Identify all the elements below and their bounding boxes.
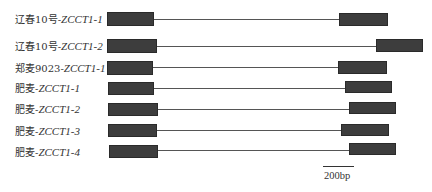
intron — [157, 130, 341, 131]
cultivar-name: 肥麦- — [15, 83, 38, 94]
exon-1 — [107, 12, 154, 26]
row-label-2: 辽春10号-ZCCT1-2 — [15, 40, 103, 53]
intron — [158, 150, 349, 151]
exon-1 — [109, 145, 158, 158]
row-label-1: 辽春10号-ZCCT1-1 — [15, 13, 103, 26]
scale-bar-label: 200bp — [324, 170, 350, 181]
cultivar-name: 辽春10号- — [15, 14, 61, 25]
gene-name: ZCCT1-2 — [61, 40, 103, 52]
cultivar-name: 肥麦- — [15, 126, 38, 137]
exon-2 — [349, 102, 396, 114]
row-label-6: 肥麦-ZCCT1-3 — [15, 125, 80, 138]
cultivar-name: 肥麦- — [15, 104, 38, 115]
exon-2 — [345, 81, 392, 93]
row-label-4: 肥麦-ZCCT1-1 — [15, 82, 80, 95]
exon-2 — [341, 124, 389, 136]
cultivar-name: 肥麦- — [15, 147, 38, 158]
row-label-3: 郑麦9023-ZCCT1-1 — [15, 62, 105, 75]
intron — [157, 46, 376, 47]
exon-2 — [376, 39, 423, 52]
intron — [153, 67, 338, 68]
gene-name: ZCCT1-2 — [38, 103, 80, 115]
exon-1 — [108, 82, 154, 95]
row-label-5: 肥麦-ZCCT1-2 — [15, 103, 80, 116]
exon-2 — [349, 143, 396, 155]
cultivar-name: 辽春10号- — [15, 41, 61, 52]
exon-1 — [108, 124, 157, 137]
exon-1 — [108, 103, 158, 116]
scale-bar — [323, 166, 354, 167]
exon-1 — [107, 61, 153, 75]
gene-name: ZCCT1-4 — [38, 146, 80, 158]
intron — [158, 109, 349, 110]
gene-name: ZCCT1-1 — [64, 62, 106, 74]
row-label-7: 肥麦-ZCCT1-4 — [15, 146, 80, 159]
cultivar-name: 郑麦9023- — [15, 63, 64, 74]
intron — [154, 19, 339, 20]
gene-name: ZCCT1-3 — [38, 125, 80, 137]
intron — [154, 88, 345, 89]
exon-2 — [339, 13, 388, 26]
exon-2 — [338, 61, 387, 74]
exon-1 — [107, 39, 157, 53]
gene-name: ZCCT1-1 — [61, 13, 103, 25]
gene-name: ZCCT1-1 — [38, 82, 80, 94]
